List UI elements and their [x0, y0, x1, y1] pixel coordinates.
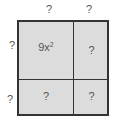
top-label-left: ?	[43, 4, 55, 15]
top-label-right: ?	[83, 4, 95, 15]
cell-top-left-base: 9x	[38, 41, 50, 53]
cell-top-right: ?	[74, 45, 109, 56]
area-grid: 9x2 ? ? ?	[17, 20, 109, 116]
left-label-bottom: ?	[4, 94, 16, 105]
cell-bottom-right: ?	[74, 91, 109, 102]
horizontal-divider	[19, 79, 107, 80]
cell-top-left-exponent: 2	[50, 41, 54, 48]
cell-top-left: 9x2	[19, 42, 73, 53]
cell-bottom-left: ?	[19, 91, 73, 102]
